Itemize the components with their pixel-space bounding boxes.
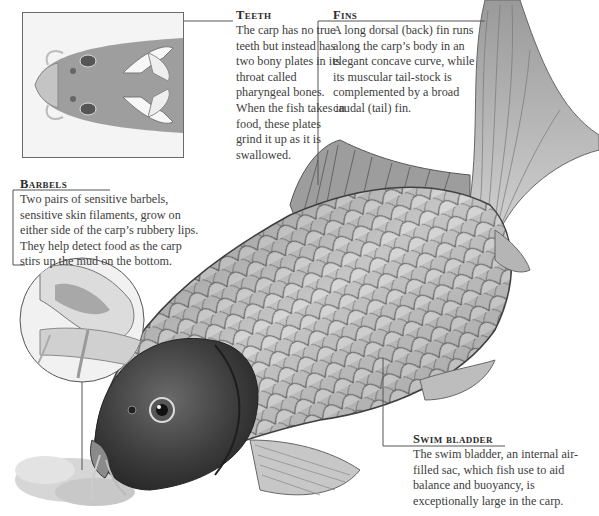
callout-barbels-title: Barbels [20,177,200,192]
callout-swim-bladder-body: The swim bladder, an internal air-filled… [413,447,593,509]
caudal-fin [470,0,599,230]
callout-swim-bladder: Swim bladder The swim bladder, an intern… [413,432,593,509]
callout-teeth-body: The carp has no true teeth but instead h… [236,23,346,163]
callout-teeth: Teeth The carp has no true teeth but ins… [236,8,346,163]
carp-anatomy-diagram: Teeth The carp has no true teeth but ins… [0,0,599,516]
callout-barbels: Barbels Two pairs of sensitive barbels, … [20,177,200,270]
callout-fins-title: Fins [333,8,483,23]
teeth-inset [22,12,184,158]
callout-barbels-body: Two pairs of sensitive barbels, sensitiv… [20,192,200,270]
callout-fins: Fins A long dorsal (back) fin runs along… [333,8,483,117]
callout-fins-body: A long dorsal (back) fin runs along the … [333,23,483,117]
callout-teeth-title: Teeth [236,8,346,23]
callout-swim-bladder-title: Swim bladder [413,432,593,447]
